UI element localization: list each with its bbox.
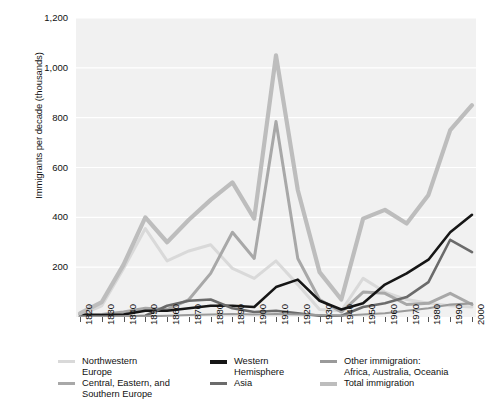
x-tick-mark-1920 <box>298 317 299 322</box>
x-tick-mark-1820 <box>80 317 81 322</box>
legend-label: Total immigration <box>344 378 414 389</box>
legend-item-western-hemisphere[interactable]: Western Hemisphere <box>210 356 284 377</box>
plot-area <box>76 18 476 317</box>
x-tick-mark-1930 <box>320 317 321 322</box>
x-tick-label-2000: 2000 <box>476 304 486 325</box>
x-tick-mark-1830 <box>102 317 103 322</box>
x-tick-label-1960: 1960 <box>389 304 399 325</box>
y-tick-label-1200: 1,200 <box>44 13 68 23</box>
series-line-total-immigration <box>80 55 472 313</box>
series-line-northwestern-europe <box>80 229 472 315</box>
x-tick-mark-1990 <box>450 317 451 322</box>
x-tick-mark-1870 <box>189 317 190 322</box>
x-tick-mark-1900 <box>254 317 255 322</box>
y-tick-label-600: 600 <box>52 163 68 173</box>
legend-label: Central, Eastern, and Southern Europe <box>82 378 170 399</box>
series-canvas <box>76 18 476 317</box>
legend-label: Other immigration: Africa, Australia, Oc… <box>344 356 448 377</box>
x-tick-mark-1950 <box>363 317 364 322</box>
x-tick-mark-1860 <box>167 317 168 322</box>
legend-label: Northwestern Europe <box>82 356 137 377</box>
y-tick-label-1000: 1,000 <box>44 63 68 73</box>
x-tick-mark-1940 <box>341 317 342 322</box>
x-tick-mark-1910 <box>276 317 277 322</box>
x-tick-mark-1880 <box>211 317 212 322</box>
x-tick-label-1920: 1920 <box>302 304 312 325</box>
legend-item-northwestern-europe[interactable]: Northwestern Europe <box>58 356 137 377</box>
x-tick-label-1860: 1860 <box>171 304 181 325</box>
x-tick-mark-1960 <box>385 317 386 322</box>
y-axis-tick-labels: 2004006008001,0001,200 <box>0 0 74 411</box>
legend-swatch-icon <box>320 360 337 363</box>
y-tick-label-200: 200 <box>52 262 68 272</box>
x-tick-label-1870: 1870 <box>193 304 203 325</box>
legend-swatch-icon <box>210 360 227 364</box>
immigration-line-chart: Immigrants per decade (thousands) 200400… <box>0 0 488 411</box>
legend-swatch-icon <box>210 382 227 385</box>
x-tick-label-1880: 1880 <box>215 304 225 325</box>
x-tick-label-1950: 1950 <box>367 304 377 325</box>
x-tick-label-1910: 1910 <box>280 304 290 325</box>
x-tick-mark-2000 <box>472 317 473 322</box>
x-tick-mark-1970 <box>407 317 408 322</box>
x-tick-label-1830: 1830 <box>106 304 116 325</box>
chart-legend: Northwestern EuropeWestern HemisphereOth… <box>58 356 486 406</box>
legend-swatch-icon <box>58 382 75 385</box>
x-tick-mark-1840 <box>124 317 125 322</box>
legend-item-asia[interactable]: Asia <box>210 378 252 389</box>
y-tick-label-400: 400 <box>52 212 68 222</box>
x-tick-label-1980: 1980 <box>432 304 442 325</box>
x-tick-label-1890: 1890 <box>236 304 246 325</box>
x-tick-label-1850: 1850 <box>149 304 159 325</box>
legend-swatch-icon <box>320 382 337 386</box>
x-tick-label-1970: 1970 <box>411 304 421 325</box>
x-tick-label-1900: 1900 <box>258 304 268 325</box>
legend-item-other-immigration-africa-australia-oceania[interactable]: Other immigration: Africa, Australia, Oc… <box>320 356 448 377</box>
x-tick-label-1820: 1820 <box>84 304 94 325</box>
x-tick-label-1990: 1990 <box>454 304 464 325</box>
x-tick-mark-1850 <box>145 317 146 322</box>
x-tick-label-1840: 1840 <box>128 304 138 325</box>
y-tick-label-800: 800 <box>52 113 68 123</box>
legend-label: Asia <box>234 378 252 389</box>
x-tick-mark-1890 <box>232 317 233 322</box>
x-tick-label-1940: 1940 <box>345 304 355 325</box>
legend-item-central-eastern-and-southern-europe[interactable]: Central, Eastern, and Southern Europe <box>58 378 170 399</box>
legend-swatch-icon <box>58 360 75 363</box>
x-tick-label-1930: 1930 <box>324 304 334 325</box>
legend-item-total-immigration[interactable]: Total immigration <box>320 378 414 389</box>
legend-label: Western Hemisphere <box>234 356 284 377</box>
x-tick-mark-1980 <box>428 317 429 322</box>
